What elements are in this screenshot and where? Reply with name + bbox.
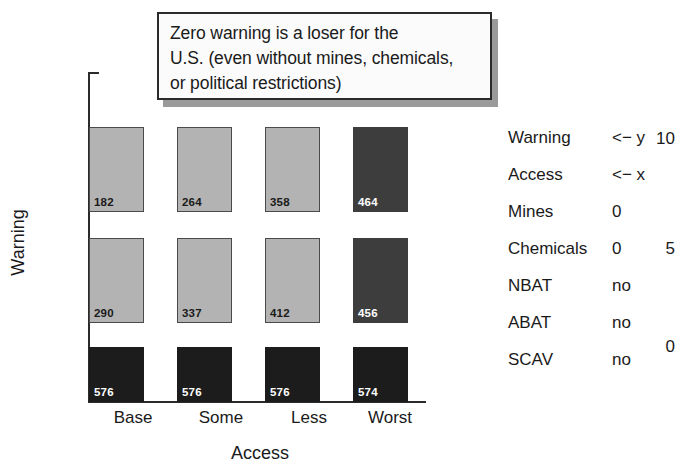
legend-label: SCAV bbox=[508, 350, 553, 370]
legend-row: SCAV no bbox=[508, 350, 668, 387]
bar: 576 bbox=[265, 347, 320, 402]
bar-value-label: 337 bbox=[182, 307, 202, 319]
x-axis-title: Access bbox=[175, 443, 345, 464]
bar-value-label: 574 bbox=[358, 386, 378, 398]
bar: 412 bbox=[265, 238, 320, 323]
legend-label: Chemicals bbox=[508, 239, 587, 259]
bar: 358 bbox=[265, 127, 320, 212]
bar-value-label: 456 bbox=[358, 307, 378, 319]
bar: 290 bbox=[89, 238, 144, 323]
legend-label: ABAT bbox=[508, 313, 551, 333]
legend-label: Warning bbox=[508, 128, 571, 148]
bar-value-label: 358 bbox=[270, 196, 290, 208]
legend-label: NBAT bbox=[508, 276, 552, 296]
bar-value-label: 576 bbox=[182, 386, 202, 398]
y-axis-title: Warning bbox=[8, 183, 29, 303]
legend-value: <− y bbox=[612, 128, 645, 148]
legend-label: Mines bbox=[508, 202, 553, 222]
legend-label: Access bbox=[508, 165, 563, 185]
x-tick-label: Some bbox=[178, 408, 264, 428]
bar-value-label: 182 bbox=[94, 196, 114, 208]
legend-value: 0 bbox=[612, 202, 621, 222]
x-tick-label: Less bbox=[266, 408, 352, 428]
bar: 264 bbox=[177, 127, 232, 212]
bar-value-label: 576 bbox=[94, 386, 114, 398]
bar: 576 bbox=[89, 347, 144, 402]
legend-value: no bbox=[612, 313, 631, 333]
bar: 576 bbox=[177, 347, 232, 402]
bar: 456 bbox=[353, 238, 408, 323]
parameter-legend: Warning <− y Access <− x Mines 0 Chemica… bbox=[508, 128, 668, 387]
bar-value-label: 290 bbox=[94, 307, 114, 319]
legend-value: 0 bbox=[612, 239, 621, 259]
y-axis-top-tick bbox=[88, 72, 99, 74]
legend-value: no bbox=[612, 276, 631, 296]
x-tick-label: Base bbox=[90, 408, 176, 428]
bar-value-label: 264 bbox=[182, 196, 202, 208]
bar-value-label: 412 bbox=[270, 307, 290, 319]
legend-row: NBAT no bbox=[508, 276, 668, 313]
legend-row: Access <− x bbox=[508, 165, 668, 202]
bar: 182 bbox=[89, 127, 144, 212]
legend-value: no bbox=[612, 350, 631, 370]
bar-value-label: 576 bbox=[270, 386, 290, 398]
legend-row: Mines 0 bbox=[508, 202, 668, 239]
legend-row: Chemicals 0 bbox=[508, 239, 668, 276]
bar: 574 bbox=[353, 347, 408, 402]
legend-row: Warning <− y bbox=[508, 128, 668, 165]
bar: 464 bbox=[353, 127, 408, 212]
bar-value-label: 464 bbox=[358, 196, 378, 208]
legend-value: <− x bbox=[612, 165, 645, 185]
legend-row: ABAT no bbox=[508, 313, 668, 350]
bar: 337 bbox=[177, 238, 232, 323]
x-tick-label: Worst bbox=[347, 408, 433, 428]
